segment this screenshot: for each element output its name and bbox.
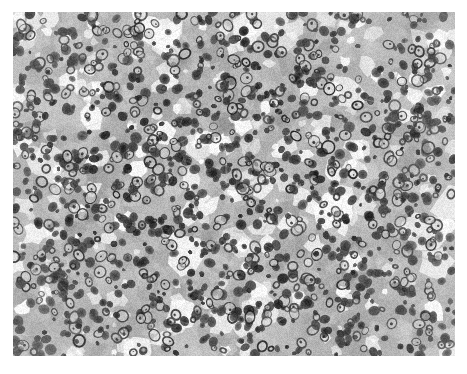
figure-root — [0, 0, 467, 374]
tissue-canvas — [13, 12, 455, 356]
histopathology-micrograph — [13, 12, 455, 356]
